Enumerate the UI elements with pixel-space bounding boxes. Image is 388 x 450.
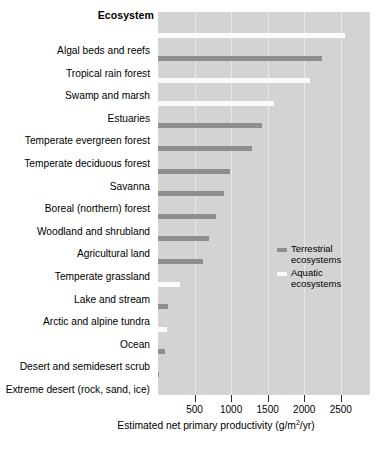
legend-item-terrestrial: Terrestrial ecosystems bbox=[277, 244, 367, 265]
x-axis-tick bbox=[195, 395, 196, 402]
gridline bbox=[195, 12, 196, 395]
y-axis-label: Boreal (northern) forest bbox=[0, 203, 150, 214]
x-axis-tick-label: 2000 bbox=[293, 404, 315, 415]
bar bbox=[158, 78, 310, 83]
x-axis-tick bbox=[341, 395, 342, 402]
x-axis-tick-label: 500 bbox=[186, 404, 203, 415]
bar bbox=[158, 327, 167, 332]
bar bbox=[158, 56, 322, 61]
y-axis-label: Estuaries bbox=[0, 113, 150, 124]
y-axis-label: Temperate evergreen forest bbox=[0, 135, 150, 146]
y-axis-label: Agricultural land bbox=[0, 248, 150, 259]
y-axis-label: Woodland and shrubland bbox=[0, 226, 150, 237]
plot-area: Terrestrial ecosystems Aquatic ecosystem… bbox=[158, 12, 370, 395]
y-axis-label: Desert and semidesert scrub bbox=[0, 361, 150, 372]
chart-title: Ecosystem bbox=[0, 9, 154, 21]
y-axis-label: Lake and stream bbox=[0, 294, 150, 305]
x-axis-title-exponent: 2 bbox=[296, 419, 300, 426]
gridline bbox=[341, 12, 342, 395]
y-axis-label: Temperate grassland bbox=[0, 271, 150, 282]
gridline bbox=[231, 12, 232, 395]
y-axis-label: Savanna bbox=[0, 181, 150, 192]
x-axis-tick bbox=[231, 395, 232, 402]
bar bbox=[158, 33, 345, 38]
chart-legend: Terrestrial ecosystems Aquatic ecosystem… bbox=[277, 244, 367, 292]
gridline bbox=[268, 12, 269, 395]
bar bbox=[158, 259, 203, 264]
bar bbox=[158, 101, 274, 106]
bar bbox=[158, 236, 209, 241]
legend-label-terrestrial: Terrestrial ecosystems bbox=[291, 244, 341, 265]
y-axis-label: Extreme desert (rock, sand, ice) bbox=[0, 384, 150, 395]
x-axis-tick-label: 1500 bbox=[257, 404, 279, 415]
x-axis-title: Estimated net primary productivity (g/m2… bbox=[26, 419, 388, 431]
bar bbox=[158, 191, 224, 196]
y-axis-label: Temperate deciduous forest bbox=[0, 158, 150, 169]
bar bbox=[158, 349, 165, 354]
y-axis-label: Arctic and alpine tundra bbox=[0, 316, 150, 327]
x-axis: 5001000150020002500 Estimated net primar… bbox=[158, 395, 370, 450]
y-axis-label: Algal beds and reefs bbox=[0, 45, 150, 56]
bar bbox=[158, 372, 159, 377]
bar bbox=[158, 214, 216, 219]
y-axis-label: Tropical rain forest bbox=[0, 68, 150, 79]
legend-label-aquatic: Aquatic ecosystems bbox=[291, 268, 341, 289]
gridline bbox=[304, 12, 305, 395]
legend-item-aquatic: Aquatic ecosystems bbox=[277, 268, 367, 289]
chart-figure: Ecosystem Algal beds and reefsTropical r… bbox=[0, 0, 388, 450]
y-axis-label: Swamp and marsh bbox=[0, 90, 150, 101]
bar bbox=[158, 169, 230, 174]
legend-swatch-terrestrial-icon bbox=[277, 248, 287, 252]
bar bbox=[158, 304, 168, 309]
x-axis-tick-label: 2500 bbox=[330, 404, 352, 415]
bar bbox=[158, 282, 180, 287]
legend-swatch-aquatic-icon bbox=[277, 272, 287, 276]
bar bbox=[158, 123, 262, 128]
x-axis-tick bbox=[268, 395, 269, 402]
y-axis-label: Ocean bbox=[0, 339, 150, 350]
x-axis-tick bbox=[304, 395, 305, 402]
y-axis-category-labels: Algal beds and reefsTropical rain forest… bbox=[0, 30, 154, 395]
x-axis-tick-label: 1000 bbox=[220, 404, 242, 415]
bar bbox=[158, 146, 252, 151]
